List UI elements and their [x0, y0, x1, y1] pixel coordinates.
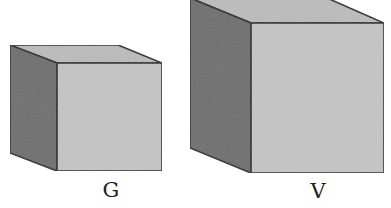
cube-g	[10, 45, 162, 171]
cube-v-front-face	[251, 23, 384, 173]
cube-v	[190, 0, 384, 173]
cube-g-side-face	[10, 45, 57, 171]
cube-g-front-face	[57, 63, 162, 171]
cube-g-label: G	[103, 178, 120, 202]
cube-v-label: V	[309, 179, 326, 203]
cubes-diagram: G V	[0, 0, 391, 208]
cube-v-side-face	[190, 0, 251, 173]
